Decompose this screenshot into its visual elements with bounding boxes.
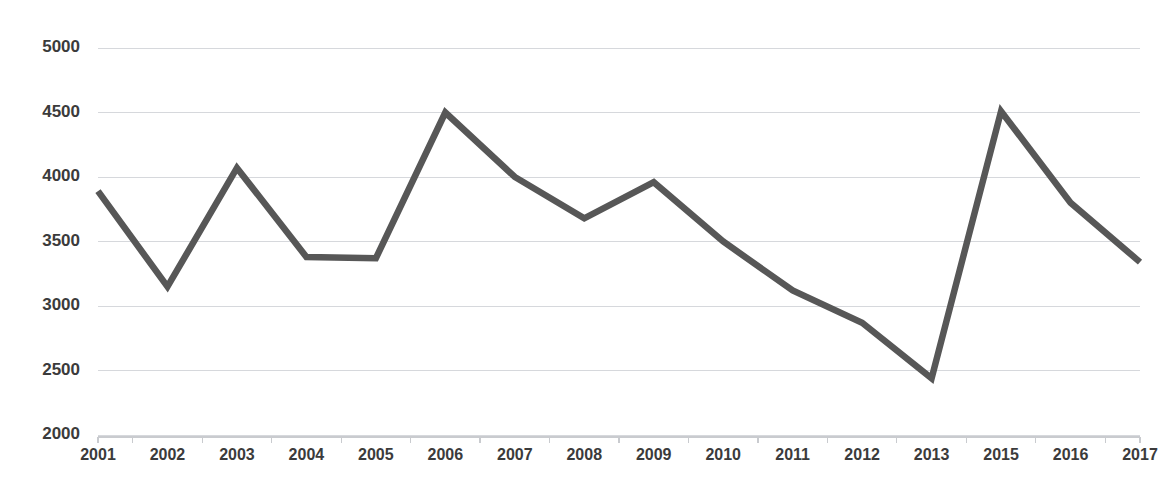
gridlines-group (98, 48, 1140, 435)
x-axis-tick-label: 2012 (844, 446, 880, 463)
y-axis-tick-label: 4500 (42, 102, 80, 121)
x-axis-tick-label: 2013 (914, 446, 950, 463)
x-axis-tick-label: 2002 (150, 446, 186, 463)
x-axis-tick-marks (98, 437, 1140, 443)
x-axis-tick-label: 2010 (705, 446, 741, 463)
x-axis-tick-label: 2007 (497, 446, 533, 463)
line-chart: 5000450040003500300025002000 20012002200… (0, 0, 1161, 483)
x-axis-tick-labels: 2001200220032004200520062007200820092010… (80, 446, 1158, 463)
y-axis-tick-label: 3000 (42, 295, 80, 314)
y-axis-tick-label: 2000 (42, 424, 80, 443)
data-series-group (98, 111, 1140, 378)
x-axis-tick-label: 2016 (1053, 446, 1089, 463)
x-axis-tick-label: 2015 (983, 446, 1019, 463)
chart-canvas: 5000450040003500300025002000 20012002200… (0, 0, 1161, 483)
y-axis-tick-label: 2500 (42, 360, 80, 379)
x-axis-tick-label: 2009 (636, 446, 672, 463)
x-axis-tick-label: 2004 (289, 446, 325, 463)
x-axis-tick-label: 2006 (428, 446, 464, 463)
y-axis-tick-labels: 5000450040003500300025002000 (42, 37, 80, 443)
x-axis-tick-label: 2008 (566, 446, 602, 463)
x-axis-tick-label: 2003 (219, 446, 255, 463)
x-axis-tick-label: 2017 (1122, 446, 1158, 463)
x-axis-tick-label: 2001 (80, 446, 116, 463)
data-line-series-1 (98, 111, 1140, 378)
x-axis-tick-label: 2011 (775, 446, 810, 463)
y-axis-tick-label: 5000 (42, 37, 80, 56)
y-axis-tick-label: 4000 (42, 166, 80, 185)
x-axis-tick-label: 2005 (358, 446, 394, 463)
y-axis-tick-label: 3500 (42, 231, 80, 250)
